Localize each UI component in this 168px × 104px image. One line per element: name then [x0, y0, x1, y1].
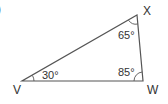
vertex-label-v: V	[13, 83, 21, 97]
angle-arc-v	[33, 76, 35, 82]
angle-label-v: 30°	[42, 69, 59, 81]
angle-label-w: 85°	[118, 66, 135, 78]
angle-arc-x	[129, 20, 138, 24]
angle-arc-w	[134, 72, 142, 81]
part-marker: )	[0, 2, 1, 16]
triangle-diagram: ) V W X 30° 65° 85°	[0, 0, 168, 104]
vertex-label-x: X	[143, 4, 151, 18]
angle-label-x: 65°	[118, 29, 135, 41]
vertex-label-w: W	[147, 83, 159, 97]
